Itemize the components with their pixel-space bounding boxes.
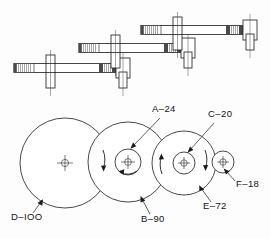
label-e72: E–72 bbox=[203, 200, 227, 211]
label-b90: B–90 bbox=[141, 213, 165, 224]
gear-pitch-circles bbox=[20, 118, 234, 208]
technical-drawing-sheet: A–24 C–20 F–18 D–IOO B–90 E–72 bbox=[0, 0, 271, 239]
drawing-canvas: A–24 C–20 F–18 D–IOO B–90 E–72 bbox=[0, 0, 271, 239]
label-a24: A–24 bbox=[152, 103, 176, 114]
leader-b90 bbox=[141, 196, 151, 214]
label-d100: D–IOO bbox=[11, 211, 43, 222]
label-c20: C–20 bbox=[208, 108, 232, 119]
label-f18: F–18 bbox=[236, 178, 259, 189]
